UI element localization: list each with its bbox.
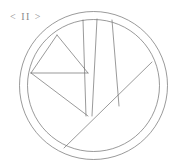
chord-network — [31, 19, 152, 148]
chord-vertical-right — [92, 19, 97, 116]
chord-long-diagonal — [64, 62, 152, 148]
circle-diagram — [0, 0, 182, 166]
chord-left-vertex-to-base — [31, 73, 88, 116]
diagram-canvas: < II > — [0, 0, 182, 166]
chord-vertical-left — [83, 20, 86, 116]
chord-right-slant — [112, 20, 119, 106]
